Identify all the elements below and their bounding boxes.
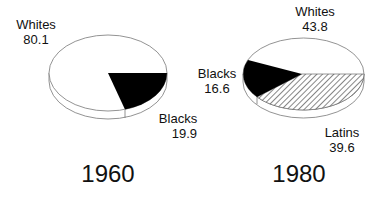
label-1960-whites: Whites 80.1	[14, 17, 58, 47]
label-1960-blacks: Blacks 19.9	[155, 111, 201, 141]
label-1960-whites-value: 80.1	[14, 32, 58, 47]
label-1980-whites: Whites 43.8	[293, 4, 337, 34]
label-1960-whites-name: Whites	[14, 17, 58, 32]
pie-1980	[243, 38, 364, 118]
label-1960-blacks-value: 19.9	[155, 126, 201, 141]
label-1980-latins: Latins 39.6	[322, 125, 362, 155]
label-1960-blacks-name: Blacks	[155, 111, 201, 126]
label-1980-blacks-name: Blacks	[195, 66, 239, 81]
label-1980-whites-value: 43.8	[293, 19, 337, 34]
label-1980-blacks-value: 16.6	[195, 81, 239, 96]
label-1980-latins-value: 39.6	[322, 140, 362, 155]
label-1980-latins-name: Latins	[322, 125, 362, 140]
label-1980-blacks: Blacks 16.6	[195, 66, 239, 96]
pie-1960	[49, 35, 167, 119]
year-1960: 1960	[78, 161, 138, 187]
year-1980: 1980	[269, 161, 329, 187]
label-1980-whites-name: Whites	[293, 4, 337, 19]
